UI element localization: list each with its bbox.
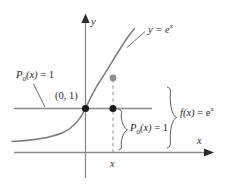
point-origin-one-marker [82,105,89,112]
y-axis-label: y [91,17,96,28]
point-label-zero-one: (0, 1) [55,91,78,102]
x-axis [14,148,214,156]
curve-label-exponent: x [170,22,173,30]
polynomial-left-eq: = 1 [40,69,54,80]
curve-exponential [12,29,135,142]
polynomial-left-arg: (x) [26,69,38,80]
leader-line-polynomial-label [34,84,46,107]
curve-label: y = ex [148,23,173,35]
polynomial-left-label: P0(x) = 1 [16,70,54,83]
brace-outer-arg: (x) [183,107,195,118]
brace-outer-exponent: x [210,105,213,113]
point-on-curve-marker [110,75,117,82]
brace-inner-p0 [119,110,128,151]
diagram-canvas [0,0,231,186]
brace-outer-label: f(x) = ex [180,106,214,118]
curve-label-base: y = e [148,24,170,35]
brace-inner-eq: = 1 [154,122,168,133]
x-axis-label: x [197,136,202,147]
brace-outer-f [167,87,177,148]
point-on-polynomial-marker [109,105,116,112]
brace-inner-arg: (x) [140,122,152,133]
brace-outer-eq: = e [197,107,210,118]
brace-inner-label: P0(x) = 1 [130,123,168,136]
x-tick-label: x [110,159,114,169]
y-axis [81,14,89,179]
figure-exponential-taylor-p0: y x x y = ex P0(x) = 1 (0, 1) P0(x) = 1 … [0,0,231,186]
